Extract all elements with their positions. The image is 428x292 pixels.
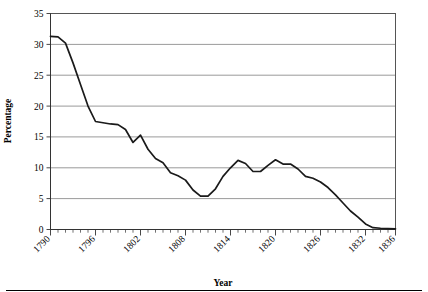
y-axis-title: Percentage: [3, 99, 13, 144]
y-tick-label: 30: [34, 40, 44, 50]
y-tick-label: 10: [34, 163, 44, 173]
y-tick-label: 15: [34, 132, 44, 142]
y-tick-label: 0: [39, 225, 44, 235]
line-chart: 05101520253035 1790179618021808181418201…: [0, 0, 428, 292]
y-tick-label: 5: [39, 194, 44, 204]
y-tick-label: 20: [34, 102, 44, 112]
chart-figure: 05101520253035 1790179618021808181418201…: [0, 0, 428, 292]
y-tick-label: 25: [34, 71, 44, 81]
y-tick-label: 35: [34, 9, 44, 19]
x-axis-title: Year: [214, 278, 234, 288]
